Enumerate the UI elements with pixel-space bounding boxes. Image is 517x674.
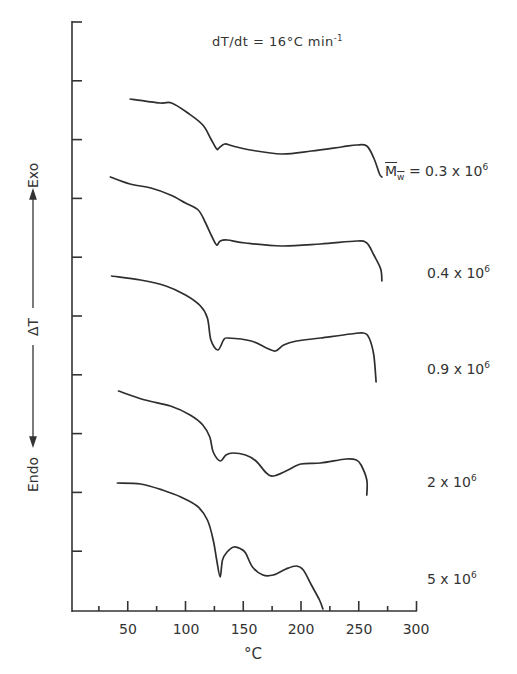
thermogram-curve-3 [119, 391, 368, 495]
arrow-down-icon [30, 437, 36, 446]
arrow-up-icon [30, 190, 36, 199]
title-exponent: -1 [334, 34, 343, 43]
x-axis-label: °C [244, 645, 262, 663]
title-rate: dT/dt = 16 [212, 34, 287, 49]
title-degree: ° [287, 34, 294, 49]
ylabel-exo: Exo [25, 163, 41, 188]
curves [110, 99, 382, 609]
thermogram-curve-0 [130, 99, 382, 177]
series-label-4: 5 x 106 [427, 570, 477, 587]
y-ticks [72, 22, 82, 551]
chart-title: dT/dt = 16°C min-1 [212, 34, 343, 49]
x-tick-label-200: 200 [288, 621, 315, 637]
series-label-2: 0.9 x 106 [427, 360, 490, 377]
title-unit: C min [294, 34, 334, 49]
mw-symbol: Mw [385, 163, 404, 179]
thermogram-curve-4 [117, 483, 323, 609]
x-tick-label-250: 250 [346, 621, 373, 637]
x-tick-label-50: 50 [119, 621, 137, 637]
x-tick-label-150: 150 [231, 621, 258, 637]
x-tick-label-300: 300 [403, 621, 430, 637]
series-label-1: 0.4 x 106 [427, 264, 490, 281]
axes [72, 21, 417, 612]
thermogram-curve-1 [110, 177, 382, 281]
ylabel-delta-t: ΔT [25, 317, 41, 336]
series-label-0: Mw = 0.3 x 106 [385, 162, 488, 181]
x-tick-label-100: 100 [173, 621, 200, 637]
series-label-3: 2 x 106 [427, 473, 477, 490]
ylabel-endo: Endo [25, 457, 41, 492]
thermogram-curve-2 [112, 276, 377, 382]
x-ticks [99, 601, 417, 611]
